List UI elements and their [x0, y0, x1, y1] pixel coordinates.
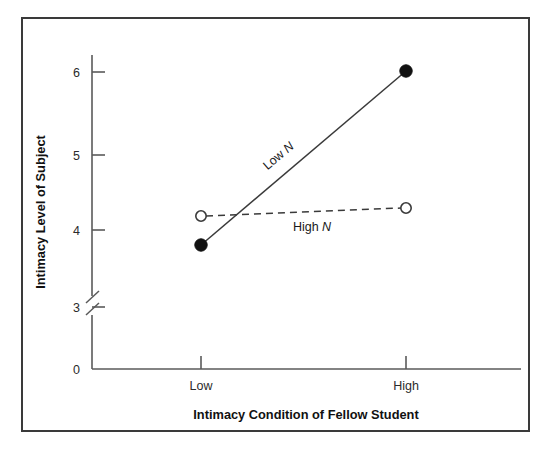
- series-label-high-n: High N: [293, 220, 332, 234]
- x-tick-label-low: Low: [190, 379, 214, 393]
- y-axis: 6 5 4 3 0: [73, 55, 105, 377]
- y-tick-label-0: 0: [73, 363, 80, 377]
- y-axis-title: Intimacy Level of Subject: [33, 134, 48, 288]
- y-tick-label-4: 4: [73, 224, 80, 238]
- y-axis-title-group: Intimacy Level of Subject: [33, 134, 48, 288]
- series-low-n-point-high: [400, 65, 412, 77]
- figure-root: 6 5 4 3 0 Low High: [0, 0, 550, 451]
- series-high-n-point-low: [196, 211, 206, 221]
- series-label-high-n-prefix: High: [293, 220, 322, 234]
- series-high-n-point-high: [401, 203, 411, 213]
- series-high-n: [196, 203, 411, 221]
- y-tick-label-6: 6: [73, 66, 80, 80]
- x-axis: Low High: [92, 356, 521, 393]
- figure-frame: 6 5 4 3 0 Low High: [21, 17, 530, 432]
- series-low-n-line: [201, 71, 406, 245]
- y-tick-label-5: 5: [73, 149, 80, 163]
- x-tick-label-high: High: [393, 379, 419, 393]
- y-tick-label-3: 3: [73, 301, 80, 315]
- series-label-high-n-italic: N: [322, 220, 332, 234]
- series-label-high-n-group: High N: [293, 220, 332, 234]
- line-chart: 6 5 4 3 0 Low High: [23, 19, 528, 430]
- x-axis-title: Intimacy Condition of Fellow Student: [193, 407, 419, 422]
- series-low-n-point-low: [195, 239, 207, 251]
- series-high-n-line: [206, 208, 401, 216]
